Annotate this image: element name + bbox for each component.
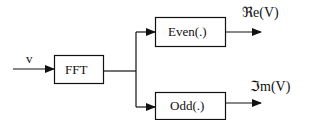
fft-block-label: FFT [65,63,87,76]
signal-flow-diagram: v FFT Even(.) Odd(.) ℜe(V) ℑm(V) [0,0,316,120]
even-block-label: Even(.) [168,25,207,38]
real-part-label: ℜe(V) [242,6,279,20]
odd-block-label: Odd(.) [170,99,204,112]
imag-part-label: ℑm(V) [250,80,290,94]
input-label: v [26,52,33,65]
